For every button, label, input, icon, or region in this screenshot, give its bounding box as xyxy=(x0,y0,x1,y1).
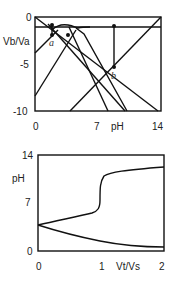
top-xlabel: pH xyxy=(111,121,124,132)
figure: a b 0 Vb/Va -5 -10 0 7 pH 14 14 pH 7 0 0… xyxy=(0,0,178,281)
label-a: a xyxy=(49,37,54,48)
top-points xyxy=(50,23,116,69)
bottom-plot-frame xyxy=(38,155,164,251)
titration-curve-up xyxy=(38,167,164,225)
line-2 xyxy=(35,30,58,53)
top-ytick-1: -5 xyxy=(20,59,29,70)
top-xtick-2: 14 xyxy=(152,121,164,132)
line-3 xyxy=(35,30,76,96)
point-b-top xyxy=(112,24,116,28)
bottom-xtick-1: 1 xyxy=(99,261,105,272)
top-xtick-0: 0 xyxy=(33,121,39,132)
top-xtick-1: 7 xyxy=(94,121,100,132)
top-ylabel: Vb/Va xyxy=(3,36,30,47)
top-ytick-2: -10 xyxy=(13,106,28,117)
bottom-ylabel: pH xyxy=(12,173,25,184)
bottom-ytick-0: 0 xyxy=(27,246,33,257)
point-intersection xyxy=(66,33,70,37)
bottom-chart xyxy=(38,155,164,251)
point-a-top xyxy=(50,23,54,27)
bottom-xtick-2: 2 xyxy=(159,261,165,272)
bottom-ytick-7: 7 xyxy=(25,197,31,208)
top-chart xyxy=(35,17,161,111)
titration-curve-down xyxy=(38,225,164,247)
top-ytick-0: 0 xyxy=(26,12,32,23)
bottom-xlabel: Vt/Vs xyxy=(116,261,140,272)
bottom-xtick-0: 0 xyxy=(36,261,42,272)
bottom-ytick-14: 14 xyxy=(22,150,34,161)
point-b xyxy=(112,65,116,69)
label-b: b xyxy=(111,70,116,81)
